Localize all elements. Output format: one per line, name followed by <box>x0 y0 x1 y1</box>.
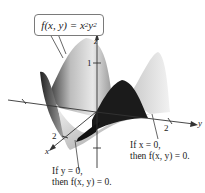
formula-callout: f(x, y) = x2y2 <box>34 14 104 36</box>
x-axis-label: x <box>45 146 49 156</box>
z-axis-label: z <box>94 36 98 46</box>
annotation-x-zero-line1: If x = 0, <box>130 140 190 151</box>
annotation-y-zero-line2: then f(x, y) = 0. <box>52 177 112 188</box>
x-tick-label: 2 <box>52 131 57 141</box>
annotation-x-zero: If x = 0, then f(x, y) = 0. <box>130 140 190 162</box>
formula-exponent-y: 2 <box>93 21 97 29</box>
y-axis-arrow <box>190 121 198 127</box>
y-tick-label: 2 <box>164 123 169 133</box>
annotation-y-zero-line1: If y = 0, <box>52 166 112 177</box>
y-axis-label: y <box>198 118 202 128</box>
formula-text: f(x, y) = x <box>41 19 84 31</box>
annotation-x-zero-line2: then f(x, y) = 0. <box>130 151 190 162</box>
annotation-y-zero: If y = 0, then f(x, y) = 0. <box>52 166 112 188</box>
z-tick-label: 1 <box>87 58 92 68</box>
